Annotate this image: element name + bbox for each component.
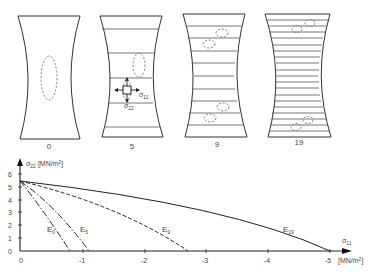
y-axis-arrow-icon [17,158,23,166]
x-tick-3: -3 [202,257,208,264]
x-tick-2: -2 [141,257,147,264]
specimen-9: 9 [183,14,247,149]
specimen-label-5: 5 [130,142,135,151]
x-tick-0: 0 [19,257,23,264]
y-tick-1: 1 [8,235,12,242]
label-e5: E5 [80,225,88,235]
specimen-5: σ11 σ22 5 [100,16,163,151]
sigma11-label: σ11 [139,91,149,100]
specimen-outline [100,16,163,137]
curve-e5 [20,181,89,251]
crack-ellipse [292,26,302,33]
y-tick-6: 6 [8,171,12,178]
x-axis-arrow-icon [342,248,352,254]
crack-ellipse [133,53,145,77]
stress-chart: 6 5 4 3 2 1 0 0 -1 -2 -3 -4 -5 σ22[MN/m2… [8,158,363,265]
x-tick-4: -4 [264,257,270,264]
y-tick-0: 0 [8,248,12,255]
crack-ellipse [303,117,313,124]
curve-e0 [20,181,70,251]
stress-element: σ11 σ22 [114,77,149,111]
specimen-outline [183,14,247,137]
crack-ellipse [203,40,215,48]
crack-ellipse [41,56,57,100]
specimen-0: 0 [18,16,80,151]
crack-ellipse [217,103,229,111]
y-tick-4: 4 [8,197,12,204]
specimen-label-19: 19 [295,138,304,147]
specimen-label-0: 0 [47,142,52,151]
x-tick-1: -1 [79,257,85,264]
crack-ellipse [305,20,315,27]
figure: 0 σ11 σ22 5 [0,0,382,274]
specimen-outline [18,16,80,139]
label-e9: E9 [162,225,170,235]
y-tick-2: 2 [8,222,12,229]
arrowhead-icon [114,88,118,92]
crack-ellipse [291,124,301,131]
curve-e19 [20,181,330,251]
x-tick-5: -5 [325,257,331,264]
specimen-label-9: 9 [215,140,220,149]
y-tick-5: 5 [8,184,12,191]
label-e0: E0 [47,225,55,235]
label-e19: E19 [283,225,294,235]
x-axis-unit: [MN/m2] [338,256,363,265]
crack-ellipse [204,114,216,122]
band-lines [186,26,243,125]
specimen-19: 19 [265,14,331,147]
crack-ellipse [216,29,228,37]
diagram-canvas: 0 σ11 σ22 5 [0,0,382,274]
y-tick-3: 3 [8,209,12,216]
y-axis-label: σ22[MN/m2] [26,159,63,169]
x-axis-symbol: σ11 [342,237,352,246]
curve-e9 [20,181,188,251]
stress-square [123,86,131,94]
